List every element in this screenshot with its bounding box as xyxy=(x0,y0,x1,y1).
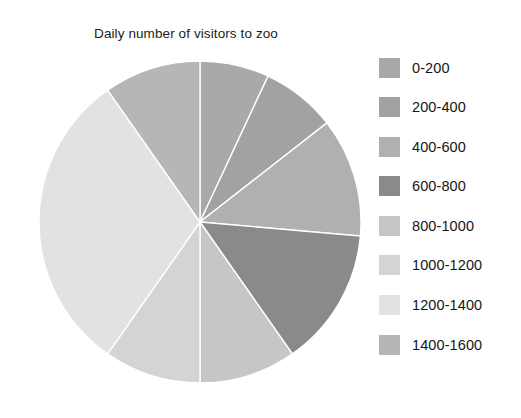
legend-color-swatch xyxy=(379,335,400,355)
legend-item: 0-200 xyxy=(379,57,519,78)
legend-item-label: 800-1000 xyxy=(412,218,474,234)
legend-color-swatch xyxy=(379,216,400,236)
legend-color-swatch xyxy=(379,255,400,275)
legend-item-label: 200-400 xyxy=(412,99,466,115)
chart-title: Daily number of visitors to zoo xyxy=(0,26,372,41)
legend-item: 1000-1200 xyxy=(379,255,519,276)
legend-color-swatch xyxy=(379,137,400,157)
legend-color-swatch xyxy=(379,97,400,117)
pie-svg xyxy=(38,60,362,384)
legend-item-label: 600-800 xyxy=(412,178,466,194)
legend-item: 600-800 xyxy=(379,176,519,197)
legend-item-label: 1000-1200 xyxy=(412,257,482,273)
legend-color-swatch xyxy=(379,295,400,315)
legend-item: 1400-1600 xyxy=(379,334,519,355)
legend-color-swatch xyxy=(379,176,400,196)
pie-plot-area xyxy=(38,60,362,384)
legend-item-label: 1200-1400 xyxy=(412,297,482,313)
legend-item: 800-1000 xyxy=(379,215,519,236)
pie-slice-group xyxy=(39,61,361,383)
pie-chart-figure: Daily number of visitors to zoo 0-200200… xyxy=(0,0,521,418)
legend-color-swatch xyxy=(379,58,400,78)
chart-legend: 0-200200-400400-600600-800800-10001000-1… xyxy=(379,57,519,374)
legend-item: 200-400 xyxy=(379,97,519,118)
legend-item: 400-600 xyxy=(379,136,519,157)
legend-item-label: 1400-1600 xyxy=(412,337,482,353)
legend-item-label: 0-200 xyxy=(412,60,450,76)
legend-item: 1200-1400 xyxy=(379,295,519,316)
legend-item-label: 400-600 xyxy=(412,139,466,155)
